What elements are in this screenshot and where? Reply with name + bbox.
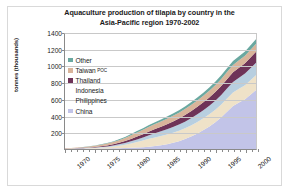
y-tick-label: 800	[51, 80, 62, 87]
legend-label: China	[76, 108, 93, 115]
y-tick-mark	[62, 133, 65, 134]
x-tick-mark	[83, 149, 84, 152]
legend-item: TaiwanPOC	[68, 65, 107, 75]
y-tick-mark	[62, 33, 65, 34]
chart-title-line-2: Asia-Pacific region 1970-2002	[100, 18, 200, 27]
legend-swatch-icon	[68, 78, 73, 83]
legend-item: Indonesia	[68, 86, 107, 96]
x-tick-mark	[107, 149, 108, 152]
y-tick-label: 600	[51, 96, 62, 103]
legend-swatch-icon	[68, 99, 73, 104]
x-tick-mark	[222, 149, 223, 152]
x-tick-mark	[101, 149, 102, 152]
x-tick-mark	[95, 149, 96, 153]
y-axis-label: tonnes (thousands)	[13, 25, 19, 105]
x-tick-mark	[125, 149, 126, 153]
x-tick-mark	[240, 149, 241, 152]
x-tick-mark	[77, 149, 78, 152]
y-tick-label: 200	[51, 130, 62, 137]
x-tick-mark	[155, 149, 156, 153]
x-tick-mark	[246, 149, 247, 153]
x-tick-mark	[198, 149, 199, 152]
x-tick-mark	[216, 149, 217, 153]
x-tick-mark	[89, 149, 90, 152]
legend-label: Other	[76, 57, 92, 64]
x-tick-mark	[131, 149, 132, 152]
x-tick-mark	[228, 149, 229, 152]
y-tick-label: 1000	[47, 63, 62, 70]
y-tick-mark	[62, 117, 65, 118]
legend-label: Indonesia	[76, 87, 104, 94]
x-tick-mark	[65, 149, 66, 153]
x-tick-mark	[168, 149, 169, 152]
x-tick-mark	[180, 149, 181, 152]
y-tick-label: 1200	[47, 46, 62, 53]
x-tick-mark	[162, 149, 163, 152]
legend-item: Other	[68, 55, 107, 65]
legend-item: China	[68, 106, 107, 116]
legend-sublabel: POC	[97, 68, 107, 73]
gridline	[65, 50, 257, 51]
y-tick-mark	[62, 66, 65, 67]
x-tick-mark	[149, 149, 150, 152]
gridline	[65, 117, 257, 118]
x-tick-mark	[113, 149, 114, 152]
x-tick-mark	[119, 149, 120, 152]
x-tick-mark	[192, 149, 193, 152]
gridline	[65, 33, 257, 34]
chart-title-line-1: Aquaculture production of tilapia by cou…	[64, 8, 234, 17]
x-tick-mark	[174, 149, 175, 152]
legend-item: Thailand	[68, 75, 107, 85]
x-tick-mark	[143, 149, 144, 152]
chart-title: Aquaculture production of tilapia by cou…	[42, 8, 257, 27]
x-tick-mark	[186, 149, 187, 153]
x-tick-mark	[258, 149, 259, 152]
legend-swatch-icon	[68, 68, 73, 73]
y-tick-label: 400	[51, 113, 62, 120]
y-tick-mark	[62, 50, 65, 51]
y-tick-label: 1400	[47, 30, 62, 37]
legend-label: Thailand	[76, 77, 101, 84]
gridline	[65, 133, 257, 134]
x-tick-mark	[71, 149, 72, 152]
x-tick-mark	[210, 149, 211, 152]
legend-label: Philippines	[76, 97, 107, 104]
legend-swatch-icon	[68, 58, 73, 63]
legend-swatch-icon	[68, 88, 73, 93]
legend-swatch-icon	[68, 109, 73, 114]
y-tick-mark	[62, 100, 65, 101]
x-tick-mark	[234, 149, 235, 152]
x-tick-mark	[252, 149, 253, 152]
x-tick-mark	[204, 149, 205, 152]
legend-item: Philippines	[68, 96, 107, 106]
y-tick-mark	[62, 83, 65, 84]
chart-legend: OtherTaiwanPOCThailandIndonesiaPhilippin…	[68, 55, 107, 116]
x-tick-mark	[137, 149, 138, 152]
legend-label: Taiwan	[76, 67, 96, 74]
